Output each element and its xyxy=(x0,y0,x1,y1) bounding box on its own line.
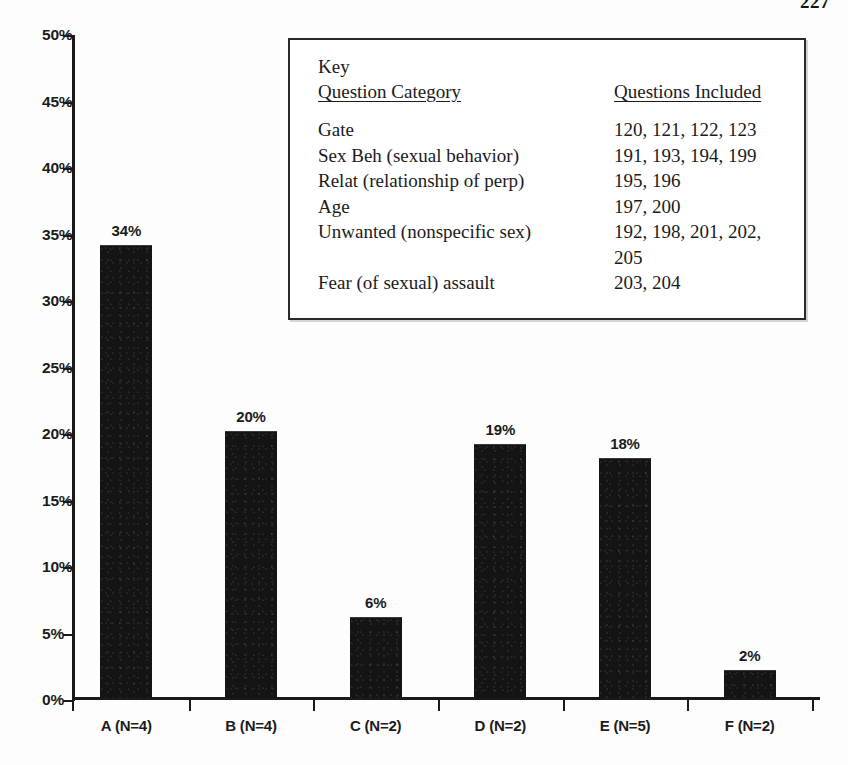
key-row-category: Fear (of sexual) assault xyxy=(318,270,614,296)
bar xyxy=(100,245,152,698)
chart-page: 227 0%5%10%15%20%25%30%35%40%45%50% A (N… xyxy=(0,0,848,765)
x-axis-tick xyxy=(72,700,74,711)
key-row-questions: 195, 196 xyxy=(614,168,681,194)
bar-value-label: 20% xyxy=(236,408,265,425)
bar xyxy=(225,431,277,698)
bar xyxy=(474,444,526,698)
key-title: Key xyxy=(318,54,794,79)
x-axis-tick xyxy=(313,700,315,711)
y-axis-label: 35% xyxy=(42,226,54,244)
key-header-questions: Questions Included xyxy=(614,79,761,104)
key-row-questions: 120, 121, 122, 123 xyxy=(614,117,757,143)
x-axis-tick xyxy=(189,700,191,711)
x-axis-tick xyxy=(687,700,689,711)
y-axis-tick xyxy=(63,634,72,636)
key-row-category: Sex Beh (sexual behavior) xyxy=(318,143,614,169)
y-axis-label: 25% xyxy=(42,359,54,377)
y-axis-label: 15% xyxy=(42,492,54,510)
key-rows: Gate120, 121, 122, 123Sex Beh (sexual be… xyxy=(318,117,794,296)
y-axis-label: 0% xyxy=(42,691,54,709)
key-row-questions: 197, 200 xyxy=(614,194,681,220)
x-axis-label: C (N=2) xyxy=(350,717,402,734)
y-axis-label: 50% xyxy=(42,26,54,44)
key-row-category: Relat (relationship of perp) xyxy=(318,168,614,194)
y-axis-label: 5% xyxy=(42,625,54,643)
key-row: Sex Beh (sexual behavior)191, 193, 194, … xyxy=(318,143,794,169)
key-row-category: Age xyxy=(318,194,614,220)
y-axis-label: 10% xyxy=(42,558,54,576)
key-row: Unwanted (nonspecific sex)192, 198, 201,… xyxy=(318,219,794,270)
key-row: Gate120, 121, 122, 123 xyxy=(318,117,794,143)
y-axis-tick xyxy=(63,700,72,702)
key-row-questions: 191, 193, 194, 199 xyxy=(614,143,757,169)
x-axis-tick xyxy=(563,700,565,711)
y-axis-label: 45% xyxy=(42,93,54,111)
x-axis-label: E (N=5) xyxy=(600,717,651,734)
y-axis-line xyxy=(72,35,75,701)
key-row-questions: 192, 198, 201, 202, 205 xyxy=(614,219,794,270)
y-axis-label: 30% xyxy=(42,292,54,310)
bar-value-label: 18% xyxy=(610,435,639,452)
key-row: Fear (of sexual) assault203, 204 xyxy=(318,270,794,296)
x-axis-label: B (N=4) xyxy=(225,717,277,734)
y-axis-label: 40% xyxy=(42,159,54,177)
key-header-category: Question Category xyxy=(318,79,614,104)
key-row: Age197, 200 xyxy=(318,194,794,220)
bar-value-label: 2% xyxy=(739,647,760,664)
x-axis-label: F (N=2) xyxy=(725,717,775,734)
key-header-row: Question Category Questions Included xyxy=(318,79,794,104)
bar xyxy=(350,617,402,698)
key-row: Relat (relationship of perp)195, 196 xyxy=(318,168,794,194)
key-row-questions: 203, 204 xyxy=(614,270,681,296)
key-row-category: Gate xyxy=(318,117,614,143)
bar-value-label: 6% xyxy=(365,594,386,611)
bar-value-label: 34% xyxy=(112,222,141,239)
x-axis-tick xyxy=(812,700,814,711)
key-legend-box: Key Question Category Questions Included… xyxy=(288,38,806,320)
bar xyxy=(724,670,776,698)
x-axis-label: A (N=4) xyxy=(101,717,152,734)
page-number: 227 xyxy=(800,0,830,13)
bar-value-label: 19% xyxy=(486,421,515,438)
x-axis-label: D (N=2) xyxy=(475,717,527,734)
x-axis-line xyxy=(72,697,820,700)
bar xyxy=(599,458,651,698)
key-row-category: Unwanted (nonspecific sex) xyxy=(318,219,614,270)
y-axis-label: 20% xyxy=(42,425,54,443)
x-axis-tick xyxy=(438,700,440,711)
